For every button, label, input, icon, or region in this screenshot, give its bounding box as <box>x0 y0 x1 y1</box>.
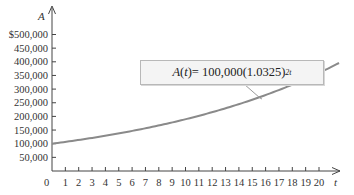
formula-annotation: A(t) = 100,000(1.0325)2t <box>140 60 324 85</box>
x-tick-label: 8 <box>156 177 161 188</box>
x-tick-label: 20 <box>314 177 325 188</box>
x-tick-label: 19 <box>300 177 311 188</box>
x-tick-label: 7 <box>143 177 148 188</box>
x-tick-label: 9 <box>170 177 175 188</box>
x-tick-label: 18 <box>287 177 298 188</box>
x-tick-label: 4 <box>103 177 109 188</box>
annotation-leader-line <box>244 84 262 99</box>
x-tick-label: 14 <box>234 177 245 188</box>
x-tick-label: 6 <box>129 177 134 188</box>
y-tick-label: 150,000 <box>14 125 48 136</box>
y-tick-label: 50,000 <box>19 152 48 163</box>
y-tick-label: 350,000 <box>14 70 48 81</box>
x-tick-labels: 1234567891011121314151617181920 <box>63 177 325 188</box>
x-tick-label: 5 <box>116 177 121 188</box>
y-tick-label: 250,000 <box>14 97 48 108</box>
x-tick-label: 12 <box>207 177 218 188</box>
x-tick-label: 13 <box>220 177 231 188</box>
y-tick-label: 100,000 <box>14 138 48 149</box>
x-tick-label: 10 <box>180 177 191 188</box>
y-tick-label: 200,000 <box>14 111 48 122</box>
x-tick-label: 3 <box>89 177 94 188</box>
formula-lhs: A <box>172 65 180 80</box>
y-tick-label: 300,000 <box>14 84 48 95</box>
y-axis-label: A <box>37 10 45 22</box>
x-tick-label: 11 <box>194 177 204 188</box>
formula-arg: t <box>184 65 187 80</box>
x-tick-label: 17 <box>274 177 285 188</box>
y-tick-label: 450,000 <box>14 43 48 54</box>
x-tick-label: 1 <box>63 177 68 188</box>
y-tick-label: $500,000 <box>9 29 48 40</box>
x-axis-label: t <box>334 176 338 188</box>
exponential-growth-chart: 50,000100,000150,000200,000250,000300,00… <box>0 0 354 195</box>
x-tick-label: 15 <box>247 177 258 188</box>
y-tick-label: 400,000 <box>14 56 48 67</box>
x-tick-label: 2 <box>76 177 81 188</box>
formula-exponent: 2t <box>285 68 291 77</box>
axis-ticks <box>52 35 319 172</box>
y-tick-labels: 50,000100,000150,000200,000250,000300,00… <box>9 29 48 163</box>
origin-label: 0 <box>44 177 49 188</box>
x-tick-label: 16 <box>260 177 271 188</box>
formula-rhs: = 100,000(1.0325) <box>192 65 286 80</box>
